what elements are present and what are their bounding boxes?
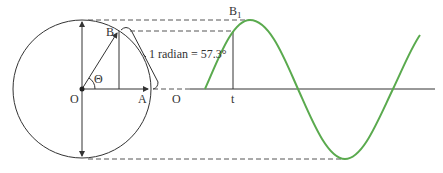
label-peak-subscript: 1: [237, 10, 242, 20]
radian-sine-diagram: O B A Θ O 1 radian = 57.3° B1 t: [0, 0, 443, 173]
center-point: [80, 87, 85, 92]
label-peak-b: B: [229, 4, 237, 18]
label-center-o: O: [70, 92, 79, 106]
label-radian-note: 1 radian = 57.3°: [149, 47, 227, 61]
label-peak-b1: B1: [229, 4, 242, 20]
label-time-t: t: [231, 92, 235, 106]
label-point-a: A: [138, 92, 147, 106]
label-angle-theta: Θ: [94, 72, 103, 86]
label-origin-o: O: [172, 92, 181, 106]
label-point-b: B: [106, 25, 114, 39]
